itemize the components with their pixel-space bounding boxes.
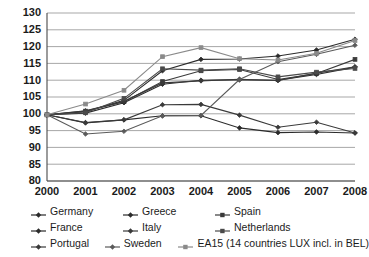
legend-item-portugal[interactable]: Portugal [30,237,104,249]
legend-item-france[interactable]: France [30,221,122,233]
data-point [160,102,165,107]
legend-marker-icon [122,222,139,232]
x-axis-tick-label: 2001 [73,185,97,197]
data-point [199,57,204,62]
x-axis-tick-label: 2004 [189,185,214,197]
y-axis-tick-label: 115 [23,57,41,69]
x-axis-tick-label: 2005 [227,185,251,197]
legend-label: Germany [50,205,93,217]
y-axis-tick-label: 130 [23,6,41,18]
data-point [315,51,319,55]
x-axis-tick-label: 2002 [112,185,136,197]
legend-label: Portugal [50,237,89,249]
legend-item-sweden[interactable]: Sweden [104,237,178,249]
data-point [122,129,127,134]
y-axis-tick-label: 90 [29,141,41,153]
data-point [84,102,88,106]
legend-marker-icon [122,206,139,216]
data-point [199,46,203,50]
legend-label: Spain [234,205,261,217]
y-axis-tick-label: 125 [23,23,41,35]
legend-item-ea15[interactable]: EA15 (14 countries LUX incl. in BEL) [177,237,369,249]
legend-label: France [50,221,83,233]
x-axis-tick-label: 2000 [35,185,59,197]
y-axis-tick-label: 95 [29,124,41,136]
legend-item-netherlands[interactable]: Netherlands [214,221,291,233]
data-point [199,102,204,107]
y-axis-tick-label: 100 [23,107,41,119]
plot-area: 8085909510010511011512012513020002001200… [0,0,369,200]
y-axis-tick-label: 85 [29,158,41,170]
data-point [122,118,127,123]
data-point [353,57,357,61]
data-point [45,113,49,117]
series-line [47,67,355,115]
data-point [276,58,280,62]
x-axis-tick-label: 2003 [150,185,174,197]
legend-marker-icon [30,238,47,248]
chart-canvas: 8085909510010511011512012513020002001200… [0,0,369,200]
legend-item-greece[interactable]: Greece [122,205,214,217]
legend-row: FranceItalyNetherlands [30,219,369,235]
data-point [353,67,357,71]
data-point [238,67,242,71]
legend-label: Netherlands [234,221,291,233]
legend-item-germany[interactable]: Germany [30,205,122,217]
series-spain [45,57,357,116]
data-point [199,68,203,72]
data-point [122,88,126,92]
legend-item-spain[interactable]: Spain [214,205,261,217]
y-axis-tick-label: 105 [23,90,41,102]
legend-marker-icon [177,238,194,248]
chart-legend: GermanyGreeceSpainFranceItalyNetherlands… [0,203,369,257]
line-chart: 8085909510010511011512012513020002001200… [0,0,369,257]
legend-label: Italy [142,221,161,233]
data-point [353,39,357,43]
data-point [276,75,280,79]
legend-marker-icon [214,222,231,232]
legend-label: EA15 (14 countries LUX incl. in BEL) [197,237,369,249]
x-axis-tick-label: 2008 [343,185,367,197]
legend-marker-icon [30,222,47,232]
legend-marker-icon [214,206,231,216]
data-point [353,131,358,136]
data-point [83,120,88,125]
legend-item-italy[interactable]: Italy [122,221,214,233]
data-point [238,57,242,61]
data-point [83,132,88,137]
data-point [161,67,165,71]
x-axis-tick-label: 2007 [304,185,328,197]
data-point [276,125,281,130]
data-point [122,96,126,100]
legend-marker-icon [104,238,121,248]
legend-label: Greece [142,205,176,217]
data-point [315,70,319,74]
data-point [276,54,281,59]
data-point [161,55,165,59]
data-point [314,120,319,125]
y-axis-tick-label: 120 [23,40,41,52]
legend-row: PortugalSwedenEA15 (14 countries LUX inc… [30,235,369,251]
data-point [84,111,88,115]
legend-row: GermanyGreeceSpain [30,203,369,219]
y-axis-tick-label: 110 [23,74,41,86]
x-axis-tick-label: 2006 [266,185,290,197]
legend-label: Sweden [124,237,162,249]
data-point [237,126,242,131]
legend-marker-icon [30,206,47,216]
